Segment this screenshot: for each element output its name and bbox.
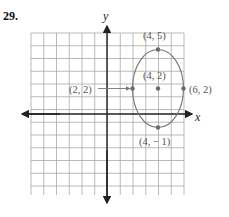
label-right-covertex: (6, 2) [189, 84, 212, 96]
label-bottom-vertex: (4, − 1) [139, 136, 171, 148]
label-center: (4, 2) [143, 70, 166, 82]
x-axis-label: x [194, 110, 201, 124]
label-left-covertex: (2, 2) [69, 84, 92, 96]
y-axis-label: y [102, 9, 109, 23]
point-bottom-vertex [156, 125, 160, 129]
point-center [156, 86, 160, 90]
point-top-vertex [156, 47, 160, 51]
graph: y x (4, 5) (4, 2) (6, 2) (2, 2) (4, − 1) [0, 0, 229, 217]
point-right-covertex [181, 86, 185, 90]
point-left-covertex [130, 86, 134, 90]
label-top-vertex: (4, 5) [143, 30, 166, 42]
